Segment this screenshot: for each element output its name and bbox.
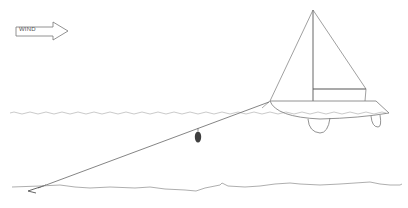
anchor-rode — [38, 102, 269, 188]
jib-sail — [270, 10, 313, 101]
sailboat — [262, 10, 389, 133]
keel — [308, 118, 330, 133]
seabed — [12, 182, 402, 191]
kellet-weight — [195, 132, 201, 143]
mainsail-leech — [313, 10, 366, 89]
wind-label: WIND — [19, 26, 36, 32]
anchoring-diagram — [0, 0, 408, 208]
rudder — [371, 115, 381, 127]
water-surface — [10, 112, 386, 114]
